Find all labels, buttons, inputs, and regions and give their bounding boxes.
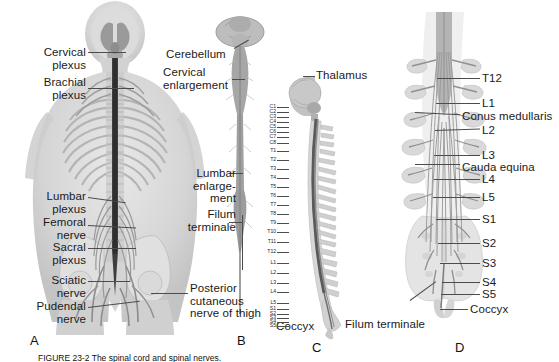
leader-t12	[277, 252, 289, 253]
panel-c-artwork	[285, 63, 355, 338]
vertebral-level-s5: S5	[262, 323, 276, 329]
label-l2: L2	[482, 124, 506, 137]
leader-s5	[441, 294, 480, 295]
leader-posterior-cutaneous-nerve	[151, 293, 188, 294]
label-filum-terminale-d: Filum terminale	[345, 318, 435, 331]
vertebral-level-c8: C8	[262, 140, 276, 146]
vertebral-level-t6: T6	[262, 193, 276, 199]
leader-c4	[277, 122, 289, 123]
label-s5: S5	[482, 288, 506, 301]
leader-s2	[438, 243, 480, 244]
leader-l5	[277, 303, 289, 304]
vertebral-level-t11: T11	[262, 239, 276, 245]
leader-coccyx-d	[440, 309, 468, 310]
leader-s4	[277, 322, 289, 323]
leader-sacral-plexus	[88, 248, 136, 249]
leader-sciatic-nerve	[88, 281, 130, 282]
label-cervical-plexus: Cervical plexus	[24, 46, 86, 71]
label-brachial-plexus: Brachial plexus	[10, 76, 86, 101]
label-lumbar-plexus: Lumbar plexus	[17, 190, 86, 215]
label-femoral-nerve: Femoral nerve	[16, 216, 86, 241]
leader-l2	[277, 273, 289, 274]
leader-t11	[277, 242, 289, 243]
leader-t6	[277, 196, 289, 197]
leader-t5	[277, 187, 289, 188]
leader-t2	[277, 160, 289, 161]
label-sciatic-nerve: Sciatic nerve	[24, 274, 86, 299]
label-coccyx-d: Coccyx	[470, 303, 516, 316]
vertebral-level-t2: T2	[262, 157, 276, 163]
label-sacral-plexus: Sacral plexus	[22, 241, 86, 266]
vertebral-level-t9: T9	[262, 220, 276, 226]
vertebral-level-t3: T3	[262, 166, 276, 172]
label-l1: L1	[482, 97, 506, 110]
label-l3: L3	[482, 149, 506, 162]
vertebral-level-l4: L4	[262, 289, 276, 295]
leader-s3	[277, 318, 289, 319]
leader-s3	[440, 263, 480, 264]
leader-s4	[442, 282, 480, 283]
leader-cauda-equina	[415, 164, 460, 165]
leader-l5	[433, 197, 480, 198]
leader-filum-terminale-b-vert	[242, 215, 243, 270]
leader-t8	[277, 214, 289, 215]
leader-t1	[277, 151, 289, 152]
vertebral-level-t8: T8	[262, 211, 276, 217]
vertebral-level-t5: T5	[262, 184, 276, 190]
label-filum-terminale: Filum terminale	[172, 208, 236, 233]
leader-l3	[434, 155, 480, 156]
label-cerebellum: Cerebellum	[166, 48, 236, 61]
label-lumbar-enlargement: Lumbar enlarge- ment	[178, 167, 236, 205]
anatomy-figure: Cervical plexusBrachial plexusLumbar ple…	[0, 0, 559, 362]
label-t12: T12	[482, 72, 512, 85]
leader-l3	[277, 283, 289, 284]
leader-l4	[434, 179, 480, 180]
leader-t3	[277, 169, 289, 170]
vertebral-level-l3: L3	[262, 280, 276, 286]
leader-c5	[277, 127, 289, 128]
leader-t4	[277, 178, 289, 179]
vertebral-level-l2: L2	[262, 270, 276, 276]
leader-s1	[277, 309, 289, 310]
leader-s2	[277, 314, 289, 315]
vertebral-level-t10: T10	[262, 229, 276, 235]
label-cauda-equina: Cauda equina	[462, 161, 542, 174]
label-s4: S4	[482, 276, 506, 289]
leader-t7	[277, 205, 289, 206]
figure-caption: FIGURE 23-2 The spinal cord and spinal n…	[38, 353, 518, 362]
vertebral-level-t7: T7	[262, 202, 276, 208]
leader-l1	[436, 103, 480, 104]
leader-cervical-plexus	[88, 52, 126, 53]
leader-c3	[277, 117, 289, 118]
leader-t10	[277, 232, 289, 233]
label-conus-medullaris: Conus medullaris	[462, 110, 558, 123]
panel-letter-b: B	[237, 333, 246, 348]
vertebral-level-t12: T12	[262, 249, 276, 255]
leader-c6	[277, 132, 289, 133]
label-thalamus: Thalamus	[316, 69, 376, 82]
vertebral-level-t1: T1	[262, 148, 276, 154]
leader-s1	[436, 219, 480, 220]
label-l5: L5	[482, 191, 506, 204]
leader-l1	[277, 263, 289, 264]
leader-t12	[437, 78, 480, 79]
label-l4: L4	[482, 173, 506, 186]
vertebral-level-t4: T4	[262, 175, 276, 181]
leader-brachial-plexus	[88, 88, 134, 89]
label-s2: S2	[482, 237, 506, 250]
leader-t9	[277, 223, 289, 224]
leader-c8	[277, 143, 289, 144]
label-s3: S3	[482, 257, 506, 270]
leader-c1	[277, 107, 289, 108]
leader-s5	[277, 326, 289, 327]
label-pudendal-nerve: Pudendal nerve	[6, 300, 86, 325]
leader-c2	[277, 112, 289, 113]
vertebral-level-l1: L1	[262, 260, 276, 266]
label-cervical-enlargement: Cervical enlargement	[163, 66, 241, 91]
panel-letter-a: A	[30, 333, 39, 348]
label-s1: S1	[482, 213, 506, 226]
leader-thalamus	[303, 76, 315, 77]
leader-c7	[277, 137, 289, 138]
leader-l4	[277, 292, 289, 293]
